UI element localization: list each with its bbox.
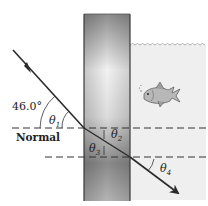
- normal-label: Normal: [16, 131, 60, 143]
- glass-slab: [84, 14, 130, 201]
- incident-angle-label: 46.0°: [12, 100, 42, 113]
- refraction-diagram: 46.0° Normal θ1 θ2 θ3 θ4: [0, 0, 208, 206]
- water-surface: [130, 44, 205, 46]
- theta1-label: θ1: [49, 114, 60, 129]
- angle-arc-theta1: [62, 111, 69, 128]
